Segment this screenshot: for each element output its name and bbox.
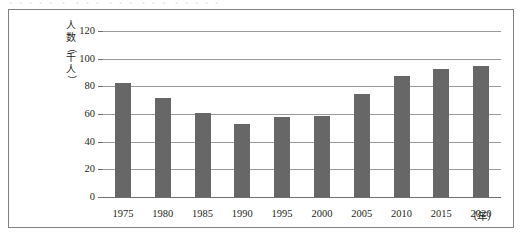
bar-2005[interactable]	[354, 94, 370, 197]
bar-1985[interactable]	[195, 113, 211, 197]
y-tick-label-80: 80	[69, 81, 95, 91]
y-tick-mark-60	[98, 114, 103, 115]
bar-1980[interactable]	[155, 98, 171, 197]
chart-figure-frame: 人 数 （ 千 人 ） 020406080100120 197519801985…	[8, 9, 514, 228]
y-tick-mark-120	[98, 31, 103, 32]
gridline-120	[103, 31, 501, 32]
y-tick-label-40: 40	[69, 137, 95, 147]
x-tick-label-1995: 1995	[262, 208, 302, 219]
bar-2015[interactable]	[433, 69, 449, 197]
y-tick-mark-40	[98, 142, 103, 143]
bar-1990[interactable]	[234, 124, 250, 197]
bar-1995[interactable]	[274, 117, 290, 197]
bar-2010[interactable]	[394, 76, 410, 197]
bar-1975[interactable]	[115, 83, 131, 197]
gridline-100	[103, 59, 501, 60]
bar-chart-plot-area: 人 数 （ 千 人 ） 020406080100120 197519801985…	[9, 10, 515, 229]
y-tick-mark-80	[98, 86, 103, 87]
gridline-0	[103, 197, 501, 198]
y-tick-label-100: 100	[69, 54, 95, 64]
y-tick-label-0: 0	[69, 192, 95, 202]
x-tick-label-1990: 1990	[222, 208, 262, 219]
x-tick-label-2005: 2005	[342, 208, 382, 219]
y-tick-mark-20	[98, 169, 103, 170]
y-tick-label-20: 20	[69, 164, 95, 174]
y-tick-label-120: 120	[69, 26, 95, 36]
x-tick-label-2015: 2015	[421, 208, 461, 219]
x-tick-label-1985: 1985	[183, 208, 223, 219]
y-tick-mark-0	[98, 197, 103, 198]
cut-off-text-above-figure: ・・・・・ ・ ・・・ ・・・ ・・・ ・・・・・	[6, 0, 386, 4]
x-tick-label-1975: 1975	[103, 208, 143, 219]
y-tick-label-60: 60	[69, 109, 95, 119]
x-tick-label-1980: 1980	[143, 208, 183, 219]
bar-2000[interactable]	[314, 116, 330, 197]
x-axis-unit-label: （年）	[467, 208, 497, 223]
bar-2020[interactable]	[473, 66, 489, 197]
x-tick-label-2000: 2000	[302, 208, 342, 219]
x-tick-label-2010: 2010	[382, 208, 422, 219]
y-tick-mark-100	[98, 59, 103, 60]
